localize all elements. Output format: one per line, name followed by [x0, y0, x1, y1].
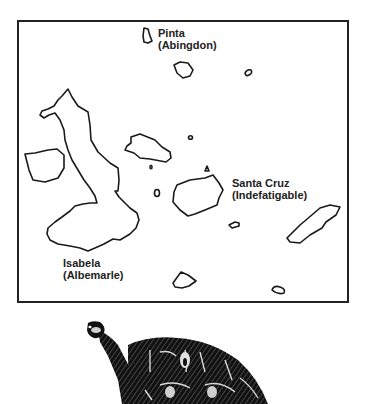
tortoise-illustration: [0, 0, 372, 404]
tortoise-shell-icon: [128, 337, 268, 404]
